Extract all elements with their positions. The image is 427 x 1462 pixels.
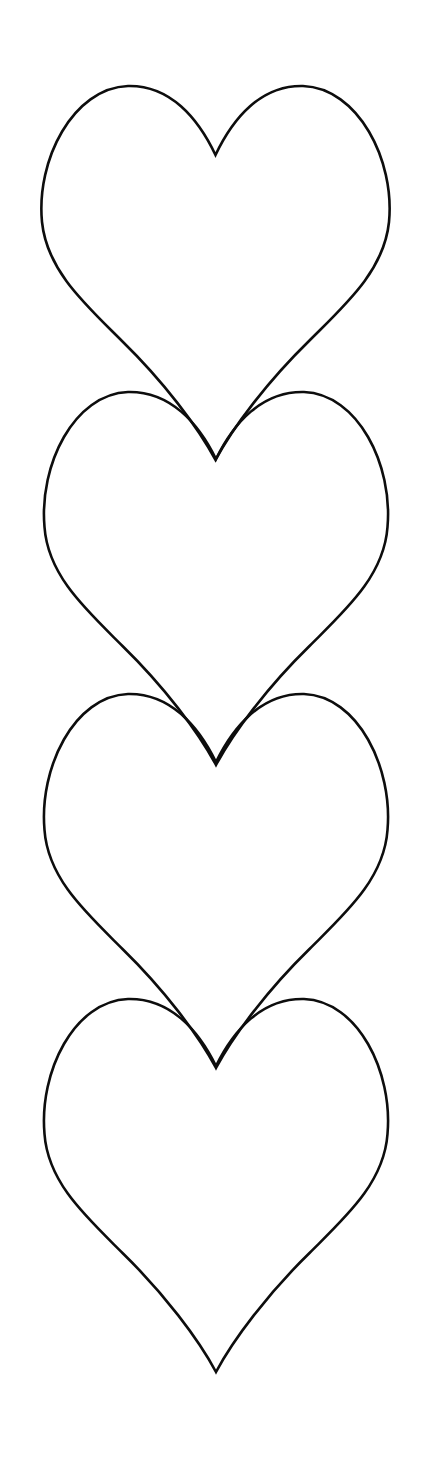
page-canvas bbox=[0, 0, 427, 1462]
heart-outline-column bbox=[0, 0, 427, 1462]
